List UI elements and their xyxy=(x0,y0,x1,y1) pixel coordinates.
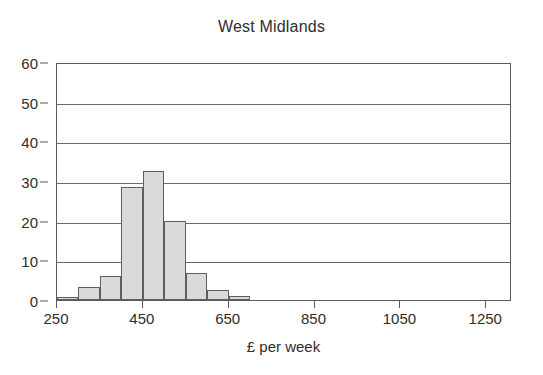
y-tick-label: 30 xyxy=(21,174,38,191)
y-tick-mark xyxy=(40,261,48,262)
histogram-figure: West Midlands 0102030405060 250450650850… xyxy=(0,0,543,375)
x-tick-label: 1050 xyxy=(383,310,416,327)
x-tick-mark xyxy=(56,301,57,308)
x-tick-label: 650 xyxy=(215,310,240,327)
y-tick-label: 0 xyxy=(30,293,38,310)
y-tick-mark xyxy=(40,102,48,103)
y-tick-mark xyxy=(40,182,48,183)
x-tick-mark xyxy=(314,301,315,308)
x-axis-title: £ per week xyxy=(56,338,511,355)
histogram-bar xyxy=(100,276,121,300)
y-tick-label: 40 xyxy=(21,134,38,151)
y-tick-mark xyxy=(40,63,48,64)
x-tick-mark xyxy=(228,301,229,308)
histogram-bar xyxy=(57,297,78,300)
x-tick-mark xyxy=(485,301,486,308)
histogram-bars xyxy=(57,64,510,300)
y-tick-label: 60 xyxy=(21,55,38,72)
y-tick-mark xyxy=(40,142,48,143)
histogram-bar xyxy=(121,187,142,300)
x-tick-label: 450 xyxy=(129,310,154,327)
histogram-bar xyxy=(78,287,99,300)
histogram-bar xyxy=(229,296,250,300)
y-tick-label: 20 xyxy=(21,213,38,230)
plot-area xyxy=(56,63,511,301)
y-axis: 0102030405060 xyxy=(0,63,48,301)
y-tick-mark xyxy=(40,301,48,302)
chart-title: West Midlands xyxy=(0,18,543,36)
y-tick-label: 50 xyxy=(21,94,38,111)
y-tick-label: 10 xyxy=(21,253,38,270)
x-tick-label: 850 xyxy=(301,310,326,327)
x-tick-mark xyxy=(142,301,143,308)
x-axis: 25045065085010501250 xyxy=(56,301,511,341)
x-tick-label: 250 xyxy=(43,310,68,327)
histogram-bar xyxy=(164,221,185,300)
histogram-bar xyxy=(207,290,228,300)
x-tick-label: 1250 xyxy=(469,310,502,327)
y-tick-mark xyxy=(40,221,48,222)
x-tick-mark xyxy=(399,301,400,308)
histogram-bar xyxy=(186,273,207,300)
histogram-bar xyxy=(143,171,164,300)
